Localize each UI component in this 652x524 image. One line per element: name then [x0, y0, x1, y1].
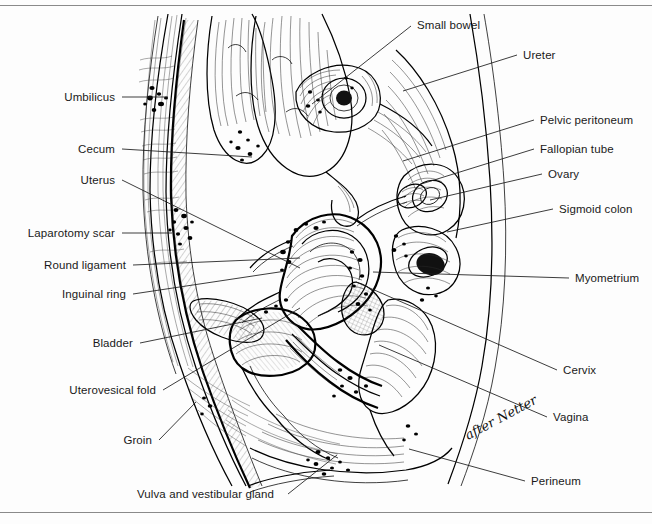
label-inguinal-ring: Inguinal ring [62, 288, 126, 300]
label-cervix: Cervix [563, 364, 596, 376]
label-ureter: Ureter [523, 49, 556, 61]
label-small-bowel: Small bowel [417, 19, 480, 31]
label-sigmoid-colon: Sigmoid colon [559, 203, 633, 215]
label-vulva-and-vestibular-gland: Vulva and vestibular gland [137, 488, 274, 500]
label-laparotomy-scar: Laparotomy scar [28, 227, 115, 239]
leader-line-cecum [122, 149, 252, 157]
label-cecum: Cecum [78, 143, 115, 155]
label-myometrium: Myometrium [575, 272, 639, 284]
signature-text: after Netter [462, 392, 540, 443]
label-uterus: Uterus [81, 174, 115, 186]
label-groin: Groin [123, 434, 152, 446]
top-rule [0, 5, 652, 6]
label-fallopian-tube: Fallopian tube [540, 143, 614, 155]
bowel-cross-section [296, 65, 432, 164]
label-vagina: Vagina [553, 411, 589, 423]
cervix-vagina [276, 326, 382, 460]
leader-line-sigmoid-colon [447, 209, 553, 232]
label-round-ligament: Round ligament [44, 259, 126, 271]
peritoneal-lining [171, 20, 262, 488]
leader-line-small-bowel [312, 26, 411, 104]
label-umbilicus: Umbilicus [64, 91, 115, 103]
leader-line-uterus [122, 180, 300, 268]
leader-line-myometrium [373, 272, 569, 278]
label-pelvic-peritoneum: Pelvic peritoneum [540, 114, 633, 126]
leader-line-groin [159, 402, 196, 440]
label-ovary: Ovary [548, 168, 579, 180]
label-bladder: Bladder [93, 337, 133, 349]
leader-line-ovary [430, 174, 542, 200]
leader-line-cervix [356, 282, 557, 370]
leader-line-round-ligament [133, 258, 300, 265]
artist-signature: after Netter [462, 392, 540, 443]
uterus [280, 214, 384, 335]
sigmoid-colon [392, 164, 464, 294]
small-bowel-loops [207, 14, 358, 226]
perineum-pelvic-floor [226, 400, 452, 483]
label-perineum: Perineum [531, 475, 581, 487]
anatomical-figure: after Netter UmbilicusCecumUterusLaparot… [0, 0, 652, 524]
leader-line-ureter [403, 55, 517, 91]
fallopian-tube-and-ovary [250, 180, 430, 272]
label-uterovesical-fold: Uterovesical fold [69, 384, 156, 396]
bottom-rule [0, 512, 652, 513]
